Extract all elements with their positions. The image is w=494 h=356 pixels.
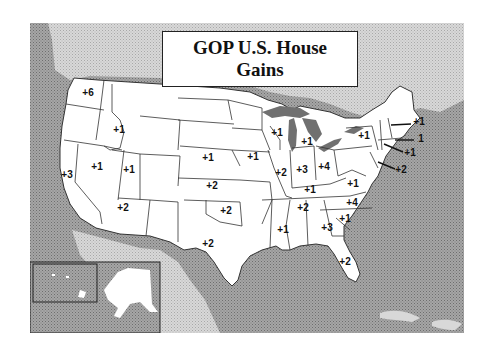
label-nevada: +1 (91, 162, 102, 172)
label-california: +3 (61, 170, 72, 180)
label-iowa: +1 (247, 152, 258, 162)
label-virginia: +1 (347, 179, 358, 189)
label-georgia: +3 (321, 223, 332, 233)
label-north-carolina: +4 (346, 198, 357, 208)
label-south-carolina: +1 (339, 214, 350, 224)
map-title-box: GOP U.S. House Gains (162, 31, 358, 87)
label-oklahoma: +2 (220, 206, 231, 216)
callout-label-new-hampshire: +1 (413, 117, 424, 127)
callout-label-connecticut: +1 (404, 148, 415, 158)
callout-label-new-jersey: +2 (395, 165, 406, 175)
alaska-hawaii-inset (30, 262, 160, 333)
label-arizona: +2 (117, 203, 128, 213)
label-illinois: +2 (275, 168, 286, 178)
label-tennessee: +2 (297, 203, 308, 213)
label-ohio: +4 (318, 162, 329, 172)
label-indiana: +3 (296, 165, 307, 175)
title-line-1: GOP U.S. House (193, 37, 327, 59)
label-michigan: +1 (301, 137, 312, 147)
label-texas: +2 (202, 239, 213, 249)
title-line-2: Gains (236, 59, 284, 81)
label-wisconsin: +1 (271, 128, 282, 138)
label-utah: +1 (123, 165, 134, 175)
label-nebraska: +1 (202, 153, 213, 163)
callout-label-massachusetts: 1 (418, 134, 424, 144)
label-washington: +6 (82, 88, 93, 98)
label-mississippi: +1 (277, 225, 288, 235)
label-new-york: +1 (358, 131, 369, 141)
label-kansas: +2 (206, 181, 217, 191)
label-kentucky: +1 (304, 185, 315, 195)
label-florida: +2 (339, 257, 350, 267)
label-idaho: +1 (113, 125, 124, 135)
